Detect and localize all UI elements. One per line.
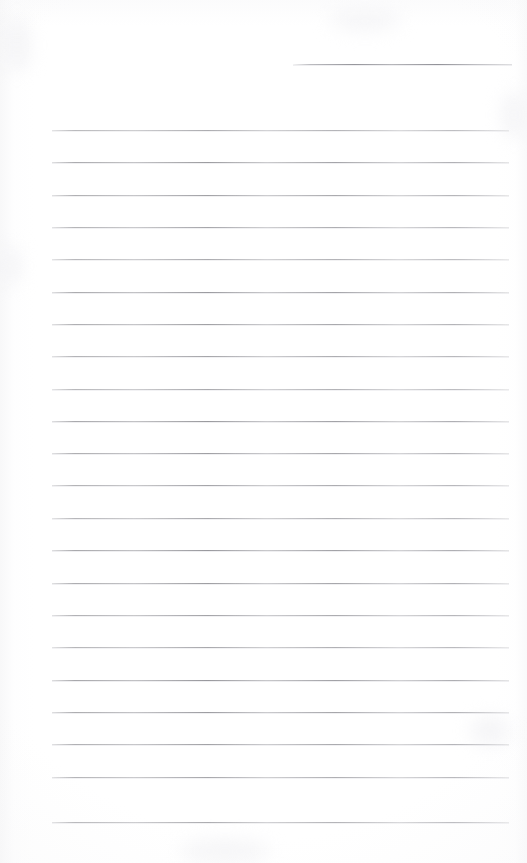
ruled-line	[52, 162, 509, 163]
scan-artifact	[4, 18, 30, 72]
scanned-page	[0, 0, 527, 863]
ruled-line	[52, 421, 509, 422]
ruled-line	[52, 195, 509, 196]
ruled-line	[52, 680, 509, 681]
scan-artifact	[180, 840, 270, 862]
ruled-line	[52, 130, 509, 131]
ruled-line	[52, 615, 509, 616]
ruled-line	[52, 453, 509, 454]
ruled-line	[52, 485, 509, 486]
ruled-line	[52, 356, 509, 357]
header-rule	[293, 64, 512, 65]
ruled-line	[52, 259, 509, 260]
scan-artifact	[470, 716, 510, 746]
ruled-line	[52, 389, 509, 390]
ruled-line	[52, 550, 509, 551]
ruled-line	[52, 744, 509, 745]
ruled-line	[52, 583, 509, 584]
ruled-line	[52, 712, 509, 713]
ruled-line	[52, 647, 509, 648]
scan-artifact	[330, 12, 400, 30]
ruled-line	[52, 518, 509, 519]
ruled-line	[52, 292, 509, 293]
ruled-line	[52, 822, 509, 823]
scan-artifact	[0, 246, 20, 286]
ruled-line	[52, 227, 509, 228]
ruled-line	[52, 324, 509, 325]
ruled-line	[52, 777, 509, 778]
